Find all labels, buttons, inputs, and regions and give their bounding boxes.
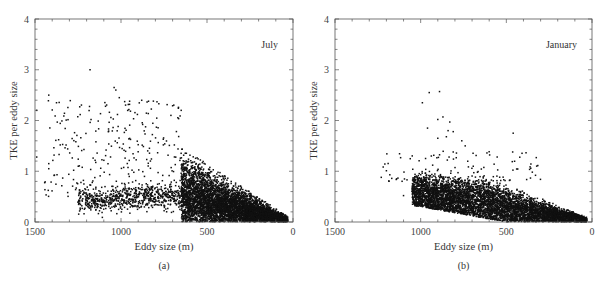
data-point: [213, 169, 215, 171]
data-point: [182, 192, 184, 194]
data-point: [231, 198, 233, 200]
data-point: [148, 100, 150, 102]
data-point: [553, 210, 555, 212]
data-point: [480, 192, 482, 194]
data-point: [206, 215, 208, 217]
data-point: [220, 206, 222, 208]
data-point: [499, 219, 501, 221]
data-point: [205, 211, 207, 213]
data-point: [572, 220, 574, 222]
data-point: [478, 211, 480, 213]
data-point: [535, 203, 537, 205]
data-point: [205, 181, 207, 183]
data-point: [150, 186, 152, 188]
data-point: [431, 181, 433, 183]
data-point: [425, 158, 427, 160]
data-point: [157, 190, 159, 192]
data-point: [198, 193, 200, 195]
data-point: [148, 192, 150, 194]
data-point: [452, 189, 454, 191]
data-point: [442, 116, 444, 118]
data-point: [163, 210, 165, 212]
data-point: [563, 214, 565, 216]
data-point: [452, 151, 454, 153]
data-point: [213, 191, 215, 193]
data-point: [183, 161, 185, 163]
data-point: [498, 189, 500, 191]
data-point: [212, 203, 214, 205]
data-point: [460, 182, 462, 184]
data-point: [442, 151, 444, 153]
data-point: [458, 185, 460, 187]
data-point: [97, 200, 99, 202]
data-point: [436, 189, 438, 191]
data-point: [217, 199, 219, 201]
data-point: [221, 200, 223, 202]
data-point: [185, 185, 187, 187]
data-point: [435, 205, 437, 207]
data-point: [189, 188, 191, 190]
data-point: [171, 170, 173, 172]
data-point: [236, 190, 238, 192]
data-point: [440, 197, 442, 199]
data-point: [512, 203, 514, 205]
data-point: [435, 195, 437, 197]
data-point: [552, 203, 554, 205]
data-point: [467, 160, 469, 162]
data-point: [551, 214, 553, 216]
data-point: [219, 218, 221, 220]
data-point: [276, 220, 278, 222]
data-point: [244, 212, 246, 214]
data-point: [167, 208, 169, 210]
data-point: [466, 212, 468, 214]
data-point: [204, 210, 206, 212]
data-point: [452, 131, 454, 133]
data-point: [195, 191, 197, 193]
data-point: [181, 176, 183, 178]
data-point: [527, 211, 529, 213]
data-point: [488, 151, 490, 153]
data-point: [106, 199, 108, 201]
data-point: [545, 204, 547, 206]
data-point: [167, 194, 169, 196]
data-point: [89, 106, 91, 108]
data-point: [179, 195, 181, 197]
data-point: [229, 198, 231, 200]
data-point: [465, 207, 467, 209]
data-point: [497, 190, 499, 192]
data-point: [151, 189, 153, 191]
data-point: [523, 212, 525, 214]
data-point: [226, 216, 228, 218]
data-point: [135, 190, 137, 192]
data-point: [91, 205, 93, 207]
data-point: [218, 175, 220, 177]
data-point: [167, 154, 169, 156]
data-point: [531, 208, 533, 210]
data-point: [108, 200, 110, 202]
data-point: [216, 179, 218, 181]
data-point: [518, 220, 520, 222]
data-point: [273, 219, 275, 221]
data-point: [472, 207, 474, 209]
data-point: [156, 101, 158, 103]
data-point: [493, 176, 495, 178]
data-point: [527, 220, 529, 222]
data-point: [134, 206, 136, 208]
data-point: [135, 199, 137, 201]
data-point: [239, 192, 241, 194]
data-point: [189, 185, 191, 187]
data-point: [410, 158, 412, 160]
data-point: [130, 191, 132, 193]
data-point: [254, 215, 256, 217]
data-point: [83, 213, 85, 215]
data-point: [228, 185, 230, 187]
data-point: [555, 205, 557, 207]
data-point: [201, 217, 203, 219]
data-point: [195, 218, 197, 220]
data-point: [169, 186, 171, 188]
data-point: [240, 218, 242, 220]
data-point: [438, 198, 440, 200]
data-point: [500, 218, 502, 220]
data-point: [207, 180, 209, 182]
data-point: [216, 188, 218, 190]
